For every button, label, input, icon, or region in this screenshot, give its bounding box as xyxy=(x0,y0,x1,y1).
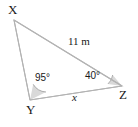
triangle-figure-svg xyxy=(0,0,138,127)
vertex-label-z: Z xyxy=(119,88,127,101)
angle-measure-label-z: 40° xyxy=(85,71,100,81)
vertex-label-x: X xyxy=(8,3,17,16)
vertex-label-y: Y xyxy=(26,103,35,116)
side-length-label-xz: 11 m xyxy=(68,36,90,47)
triangle-diagram: X Y Z 11 m x 95° 40° xyxy=(0,0,138,127)
side-length-label-yz: x xyxy=(72,92,77,103)
angle-measure-label-y: 95° xyxy=(35,73,50,83)
side-xy xyxy=(14,20,30,100)
side-xz xyxy=(14,20,122,86)
